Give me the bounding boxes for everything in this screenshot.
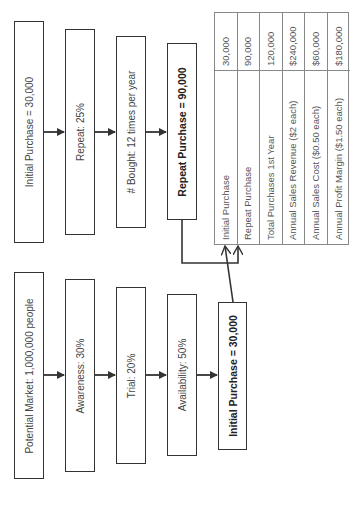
cell-label: Repeat Purchase [238, 71, 260, 244]
row-value: $60,000 [310, 32, 321, 66]
table-row: $180,000 Annual Profit Margin ($1.50 eac… [328, 13, 351, 244]
row-label: Total Purchases 1st Year [265, 135, 276, 240]
row-value: 90,000 [242, 37, 253, 66]
cell-label: Annual Profit Margin ($1.50 each) [328, 71, 351, 244]
cell-value: $60,000 [305, 13, 327, 71]
cell-label: Initial Purchase [215, 71, 237, 244]
cell-label: Total Purchases 1st Year [260, 71, 282, 244]
row-label: Initial Purchase [220, 175, 231, 240]
cell-label: Annual Sales Revenue ($2 each) [283, 71, 305, 244]
row-value: 30,000 [220, 37, 231, 66]
cell-value: 90,000 [238, 13, 260, 71]
table-row: 90,000 Repeat Purchase [238, 13, 261, 244]
table-row: 30,000 Initial Purchase [215, 13, 238, 244]
cell-value: $180,000 [328, 13, 351, 71]
row-value: 120,000 [265, 32, 276, 66]
summary-table: 30,000 Initial Purchase 90,000 Repeat Pu… [214, 12, 349, 245]
row-label: Annual Profit Margin ($1.50 each) [333, 98, 344, 240]
table-row: $240,000 Annual Sales Revenue ($2 each) [283, 13, 306, 244]
cell-value: 120,000 [260, 13, 282, 71]
cell-value: 30,000 [215, 13, 237, 71]
row-label: Annual Sales Revenue ($2 each) [287, 101, 298, 240]
table-row: $60,000 Annual Sales Cost ($0.50 each) [305, 13, 328, 244]
row-value: $240,000 [287, 26, 298, 66]
cell-value: $240,000 [283, 13, 305, 71]
table-row: 120,000 Total Purchases 1st Year [260, 13, 283, 244]
row-label: Repeat Purchase [242, 167, 253, 240]
row-value: $180,000 [333, 26, 344, 66]
cell-label: Annual Sales Cost ($0.50 each) [305, 71, 327, 244]
row-label: Annual Sales Cost ($0.50 each) [310, 106, 321, 240]
